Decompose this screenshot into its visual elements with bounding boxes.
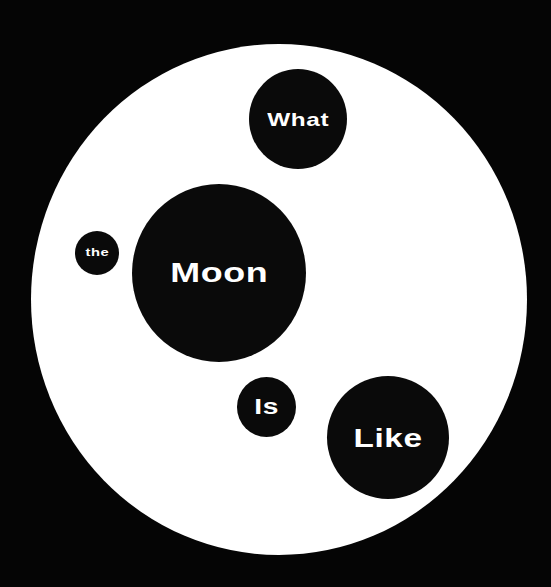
artwork-canvas: What the Moon Is Like — [0, 0, 551, 587]
word-is: Is — [254, 396, 279, 418]
word-like: Like — [353, 425, 422, 451]
bubble-what: What — [249, 69, 347, 169]
word-what: What — [267, 110, 329, 129]
bubble-the: the — [75, 231, 119, 275]
bubble-moon: Moon — [132, 184, 306, 362]
bubble-like: Like — [327, 376, 449, 499]
word-moon: Moon — [170, 259, 268, 287]
word-the: the — [85, 247, 109, 259]
bubble-is: Is — [237, 377, 296, 437]
